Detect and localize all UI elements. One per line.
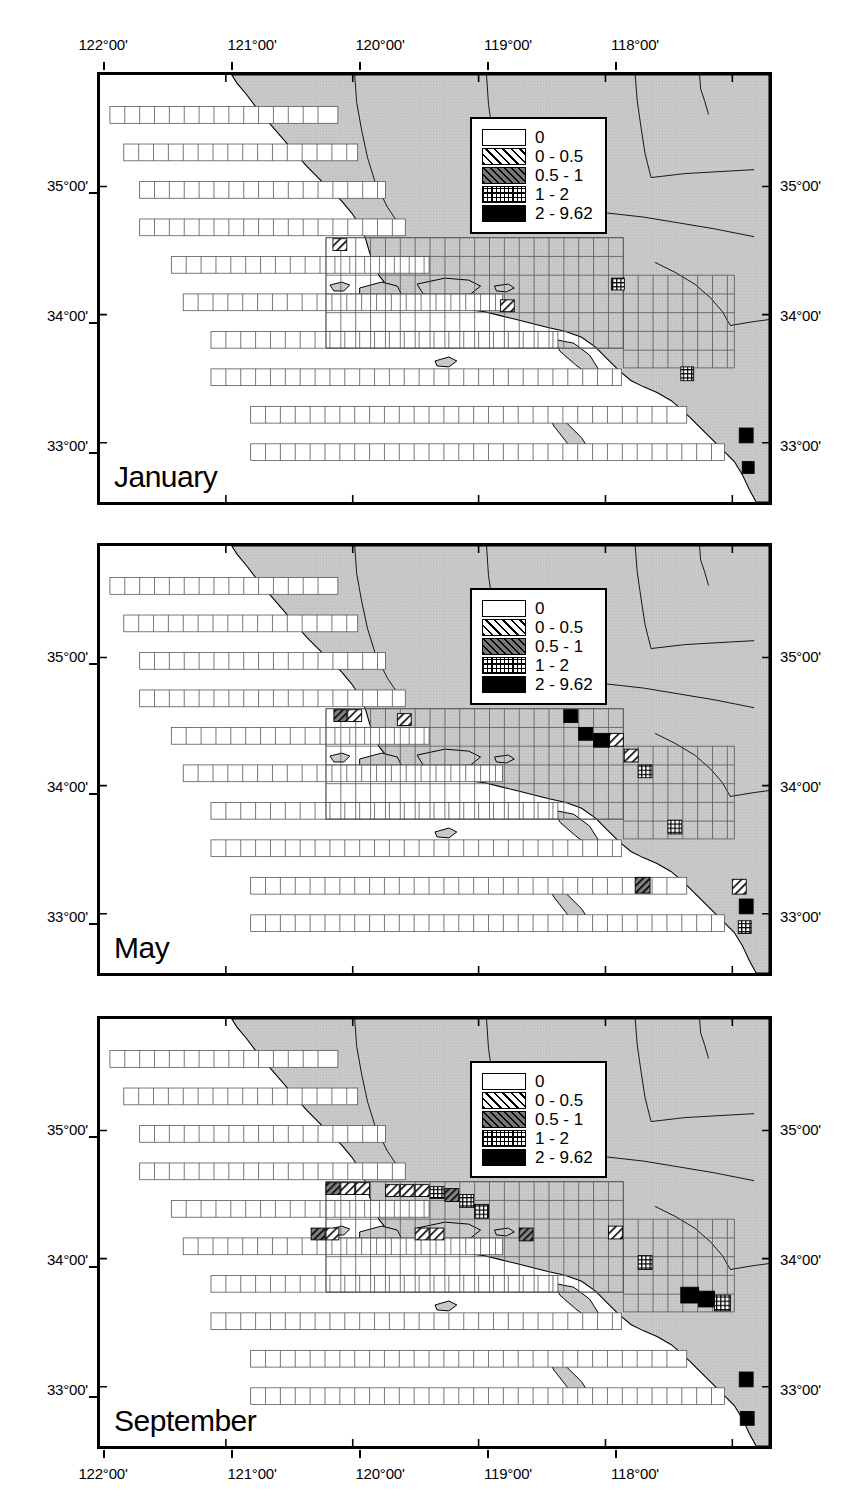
tick-y-may-33 <box>89 923 97 925</box>
x-axis-label-top-1: 121°00' <box>227 36 276 53</box>
shaded-cell <box>624 749 638 762</box>
legend-label-0: 0 <box>535 1073 544 1090</box>
shaded-cell <box>738 921 751 934</box>
shaded-cell <box>500 300 514 312</box>
y-axis-label-jan-right-34: 34°00' <box>780 307 821 324</box>
legend-swatch-0 <box>482 1073 526 1090</box>
y-axis-label-may-right-35: 35°00' <box>780 648 821 665</box>
shaded-cell <box>326 1183 340 1195</box>
shaded-cell <box>668 820 682 834</box>
tick-y-jan-35 <box>89 192 97 194</box>
grid-block-nearshore <box>326 1182 623 1292</box>
shaded-cell <box>635 877 650 893</box>
y-axis-label-may-right-34: 34°00' <box>780 778 821 795</box>
y-axis-label-sep-left-33: 33°00' <box>18 1381 88 1398</box>
shaded-cell <box>608 1226 622 1239</box>
legend-swatch-0 <box>482 600 526 617</box>
map-panel-january: 0 0 - 0.5 0.5 - 1 1 - 2 2 - 9.62 January <box>97 72 772 505</box>
tick-x-bottom-4 <box>615 1450 617 1458</box>
shaded-cell <box>638 765 652 778</box>
shaded-cell <box>609 733 623 746</box>
map-panel-september: 0 0 - 0.5 0.5 - 1 1 - 2 2 - 9.62 Septemb… <box>97 1016 772 1449</box>
shaded-cell <box>397 714 411 726</box>
map-graphic-september <box>100 1019 769 1446</box>
y-axis-label-jan-left-33: 33°00' <box>18 437 88 454</box>
figure-root: 122°00' 121°00' 120°00' 119°00' 118°00' … <box>0 0 865 1512</box>
shaded-cell <box>739 428 753 443</box>
legend-swatch-1 <box>482 619 526 636</box>
legend-row: 0 <box>482 128 593 147</box>
x-axis-label-top-4: 118°00' <box>611 36 659 53</box>
shaded-cell <box>739 1372 753 1387</box>
legend-september: 0 0 - 0.5 0.5 - 1 1 - 2 2 - 9.62 <box>470 1061 607 1178</box>
legend-label-1: 0 - 0.5 <box>535 619 583 636</box>
tick-y-jan-34 <box>89 322 97 324</box>
shaded-cell <box>699 1291 715 1307</box>
legend-row: 2 - 9.62 <box>482 204 593 223</box>
legend-swatch-4 <box>482 676 526 693</box>
shaded-cell <box>611 278 624 290</box>
legend-label-4: 2 - 9.62 <box>535 1149 593 1166</box>
y-axis-label-may-left-33: 33°00' <box>18 908 88 925</box>
y-axis-label-sep-right-35: 35°00' <box>780 1121 821 1138</box>
legend-row: 1 - 2 <box>482 1129 593 1148</box>
legend-row: 1 - 2 <box>482 185 593 204</box>
legend-may: 0 0 - 0.5 0.5 - 1 1 - 2 2 - 9.62 <box>470 588 607 705</box>
legend-january: 0 0 - 0.5 0.5 - 1 1 - 2 2 - 9.62 <box>470 117 607 234</box>
x-axis-label-bottom-0: 122°00' <box>78 1465 127 1482</box>
shaded-cell <box>326 1228 339 1240</box>
legend-row: 0 <box>482 1072 593 1091</box>
legend-label-3: 1 - 2 <box>535 186 569 203</box>
y-axis-label-jan-left-35: 35°00' <box>18 177 88 194</box>
legend-row: 0.5 - 1 <box>482 637 593 656</box>
x-axis-label-bottom-1: 121°00' <box>227 1465 276 1482</box>
x-axis-label-top-3: 119°00' <box>484 36 532 53</box>
legend-swatch-1 <box>482 148 526 165</box>
legend-row: 2 - 9.62 <box>482 1148 593 1167</box>
shaded-cell <box>400 1185 414 1197</box>
legend-swatch-4 <box>482 1149 526 1166</box>
shaded-cell <box>681 367 694 381</box>
tick-x-top-4 <box>615 62 617 70</box>
x-axis-label-bottom-2: 120°00' <box>355 1465 404 1482</box>
tick-y-may-34 <box>89 793 97 795</box>
shaded-cell <box>460 1195 474 1208</box>
legend-label-0: 0 <box>535 129 544 146</box>
x-axis-label-bottom-3: 119°00' <box>484 1465 532 1482</box>
legend-label-2: 0.5 - 1 <box>535 167 583 184</box>
y-axis-label-sep-right-33: 33°00' <box>780 1381 821 1398</box>
shaded-cell <box>519 1228 533 1241</box>
map-graphic-may <box>100 546 769 973</box>
legend-swatch-3 <box>482 657 526 674</box>
tick-x-top-2 <box>359 62 361 70</box>
y-axis-label-may-left-35: 35°00' <box>18 648 88 665</box>
legend-swatch-4 <box>482 205 526 222</box>
tick-x-bottom-2 <box>359 1450 361 1458</box>
shaded-cell <box>638 1256 652 1270</box>
shaded-cell <box>742 462 754 474</box>
legend-label-3: 1 - 2 <box>535 657 569 674</box>
month-label-january: January <box>114 460 217 494</box>
grid-block-nearshore <box>326 238 623 348</box>
tick-x-top-0 <box>103 62 105 70</box>
x-axis-label-bottom-4: 118°00' <box>611 1465 659 1482</box>
shaded-cell <box>356 1183 370 1195</box>
shaded-cell <box>430 1228 444 1240</box>
tick-y-may-35 <box>89 663 97 665</box>
map-graphic-january <box>100 75 769 502</box>
shaded-cell <box>415 1228 429 1240</box>
legend-swatch-3 <box>482 1130 526 1147</box>
legend-label-1: 0 - 0.5 <box>535 148 583 165</box>
y-axis-label-may-left-34: 34°00' <box>18 778 88 795</box>
legend-swatch-2 <box>482 167 526 184</box>
y-axis-label-jan-left-34: 34°00' <box>18 307 88 324</box>
x-axis-label-top-2: 120°00' <box>355 36 404 53</box>
shaded-cell <box>579 727 593 740</box>
tick-x-top-1 <box>231 62 233 70</box>
legend-row: 0.5 - 1 <box>482 166 593 185</box>
y-axis-label-jan-right-35: 35°00' <box>780 177 821 194</box>
legend-label-3: 1 - 2 <box>535 1130 569 1147</box>
legend-row: 1 - 2 <box>482 656 593 675</box>
legend-swatch-2 <box>482 638 526 655</box>
y-axis-label-sep-left-35: 35°00' <box>18 1121 88 1138</box>
